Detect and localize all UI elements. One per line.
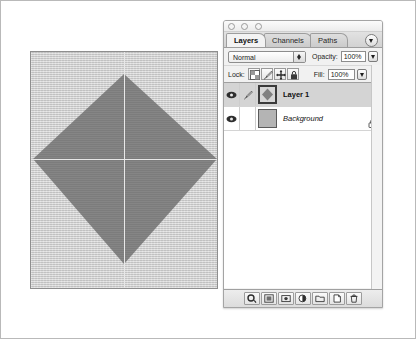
layer-name: Layer 1: [283, 90, 309, 99]
padlock-icon[interactable]: [287, 68, 299, 80]
tab-layers[interactable]: Layers: [226, 33, 266, 47]
fill-input[interactable]: 100%: [328, 69, 355, 80]
blend-mode-select[interactable]: Normal: [228, 51, 306, 63]
layer-visibility-toggle[interactable]: [224, 83, 240, 106]
lock-label: Lock:: [228, 71, 245, 78]
half-circle-icon[interactable]: [295, 292, 311, 305]
palette-scrollbar[interactable]: [371, 65, 382, 289]
link-icon[interactable]: [244, 292, 260, 305]
horizontal-guide: [31, 159, 217, 160]
vertical-guide: [124, 52, 125, 288]
blend-mode-row: Normal Opacity: 100%: [224, 48, 382, 66]
layer-thumbnail-diamond[interactable]: [258, 85, 277, 104]
zoom-button[interactable]: [255, 23, 262, 30]
fx-icon[interactable]: [261, 292, 277, 305]
layer-visibility-toggle[interactable]: [224, 107, 240, 130]
new-page-icon[interactable]: [329, 292, 345, 305]
lock-row: Lock:: [224, 66, 382, 83]
tab-channels[interactable]: Channels: [264, 33, 312, 47]
panel-menu-icon[interactable]: [365, 34, 378, 47]
palette-titlebar[interactable]: [224, 21, 382, 32]
layer-brush-indicator[interactable]: [240, 83, 256, 106]
fill-label: Fill:: [314, 71, 325, 78]
checkerboard-icon[interactable]: [248, 68, 260, 80]
fill-slider-button[interactable]: [357, 69, 367, 80]
layer-list: Layer 1 Background: [224, 83, 382, 288]
folder-icon[interactable]: [312, 292, 328, 305]
document-canvas[interactable]: [30, 51, 218, 289]
minimize-button[interactable]: [241, 23, 248, 30]
trash-icon[interactable]: [346, 292, 362, 305]
brush-icon: [243, 90, 253, 100]
eye-icon: [226, 115, 237, 123]
close-button[interactable]: [228, 23, 235, 30]
layer-name: Background: [283, 114, 323, 123]
palette-bottom-toolbar: [224, 289, 382, 307]
move-icon[interactable]: [274, 68, 286, 80]
palette-tab-strip: Layers Channels Paths: [224, 32, 382, 48]
opacity-slider-button[interactable]: [368, 51, 378, 62]
solid-gray-thumbnail-icon: [259, 110, 276, 127]
opacity-value: 100%: [344, 53, 362, 60]
table-row[interactable]: Layer 1: [224, 83, 382, 107]
diamond-thumbnail-icon: [260, 87, 275, 102]
fill-value: 100%: [331, 71, 349, 78]
mask-icon[interactable]: [278, 292, 294, 305]
eye-icon: [226, 91, 237, 99]
brush-icon[interactable]: [261, 68, 273, 80]
diamond-polygon: [33, 74, 217, 264]
chevron-updown-icon[interactable]: [293, 52, 305, 62]
layer-link-slot[interactable]: [240, 107, 256, 130]
opacity-input[interactable]: 100%: [341, 51, 367, 62]
blend-mode-value: Normal: [233, 54, 256, 61]
table-row[interactable]: Background: [224, 107, 382, 131]
layer-thumbnail-background[interactable]: [258, 109, 277, 128]
opacity-label: Opacity:: [312, 53, 338, 60]
tab-paths[interactable]: Paths: [310, 33, 348, 47]
layers-palette: Layers Channels Paths Normal Opacity: 10…: [223, 20, 383, 308]
screenshot-root: Layers Channels Paths Normal Opacity: 10…: [0, 0, 416, 339]
